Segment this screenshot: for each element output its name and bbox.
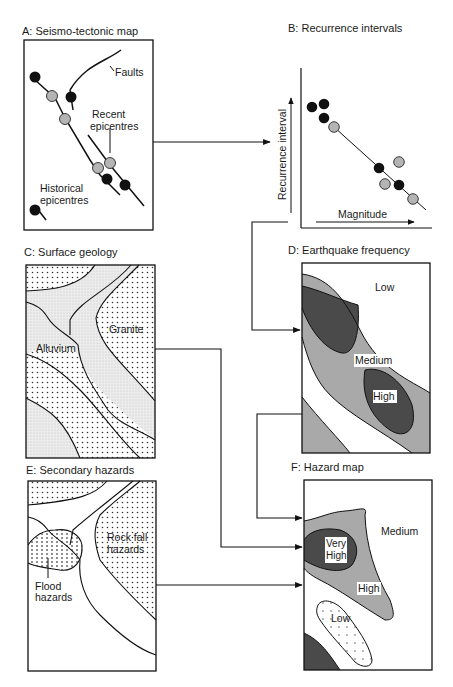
label-granite: Granite bbox=[109, 323, 144, 335]
panel-b-chart: Recurrence interval Magnitude bbox=[276, 68, 432, 228]
connectors bbox=[153, 142, 302, 585]
label-rockfall-1: Rock fall bbox=[107, 531, 147, 543]
label-rockfall-2: hazards bbox=[107, 543, 144, 555]
data-points bbox=[307, 99, 419, 205]
panel-f-map: Medium Very High High Low bbox=[304, 480, 432, 670]
label-very-high-1: Very bbox=[326, 538, 346, 549]
x-axis-label: Magnitude bbox=[338, 208, 387, 220]
panel-a-map: Faults Recent epicentres Historical epic… bbox=[24, 40, 153, 230]
label-very-high-2: High bbox=[326, 550, 347, 561]
label-high: High bbox=[373, 390, 395, 402]
panel-c-map: Granite Alluvium bbox=[26, 265, 155, 458]
label-alluvium: Alluvium bbox=[36, 342, 76, 354]
panel-e-map: Rock fall hazards Flood hazards bbox=[28, 481, 156, 671]
label-historical-1: Historical bbox=[40, 182, 83, 194]
label-medium: Medium bbox=[381, 525, 419, 537]
arrow-c-to-f bbox=[155, 349, 302, 547]
y-axis-label: Recurrence interval bbox=[276, 109, 288, 200]
label-low: Low bbox=[331, 612, 351, 624]
label-recent-1: Recent bbox=[92, 108, 125, 120]
arrow-b-to-d bbox=[252, 222, 300, 330]
label-historical-2: epicentres bbox=[40, 194, 88, 206]
label-low: Low bbox=[375, 281, 395, 293]
label-faults: Faults bbox=[115, 66, 144, 78]
label-flood-2: hazards bbox=[35, 591, 72, 603]
label-high: High bbox=[358, 582, 380, 594]
panel-d-map: Low Medium High bbox=[302, 263, 430, 453]
label-recent-2: epicentres bbox=[90, 120, 138, 132]
label-medium: Medium bbox=[355, 354, 393, 366]
arrow-d-to-f bbox=[257, 414, 302, 518]
